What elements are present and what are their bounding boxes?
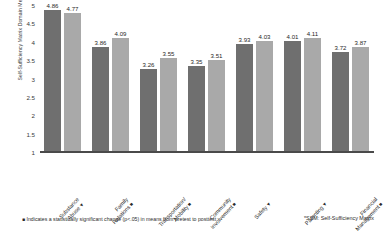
x-category-label: Transportation/Mobility■: [157, 196, 192, 232]
bar-group: 4.014.11: [284, 5, 321, 152]
significance-marker-icon: ■: [229, 201, 236, 208]
x-axis-labels: SubstanceAbuse▼FamilyRelations■Transport…: [40, 153, 372, 205]
bar-value-label: 4.09: [115, 30, 127, 37]
y-tick-label: 2: [32, 112, 40, 119]
bar-pretest[interactable]: 4.01: [284, 41, 301, 152]
y-tick-label: 3.5: [26, 57, 40, 64]
bar-value-label: 3.55: [163, 50, 175, 57]
y-tick-label: 4: [32, 38, 40, 45]
y-tick-label: 4.5: [26, 20, 40, 27]
bar-value-label: 4.03: [259, 33, 271, 40]
x-category-label: Safety▼: [253, 201, 273, 221]
footnote-significance: ■Indicates a statistically significant c…: [22, 216, 216, 222]
y-tick-label: 3: [32, 75, 40, 82]
bar-posttest[interactable]: 3.87: [352, 47, 369, 152]
significance-marker-icon: ▼: [76, 201, 84, 209]
bar-group: 3.263.55: [140, 5, 177, 152]
significance-marker-icon: ▼: [320, 201, 328, 209]
footnote-significance-text: Indicates a statistically significant ch…: [27, 216, 217, 222]
y-tick-label: 1: [32, 149, 40, 156]
y-tick-label: 2.5: [26, 93, 40, 100]
bar-posttest[interactable]: 4.09: [112, 38, 129, 152]
bar-group: 3.864.09: [92, 5, 129, 152]
bar-group: 3.353.51: [188, 5, 225, 152]
bar-pretest[interactable]: 3.26: [140, 69, 157, 152]
y-tick-label: 1.5: [26, 130, 40, 137]
bar-posttest[interactable]: 4.77: [64, 13, 81, 152]
y-axis-title: Self-Sufficiency Matrix Domain Mean Scor…: [14, 0, 26, 92]
x-category-label: FinancialManagement■: [349, 196, 383, 232]
significance-marker-icon: ■: [184, 201, 191, 208]
bar-groups: 4.864.773.864.093.263.553.353.513.934.03…: [40, 5, 372, 152]
bar-pretest[interactable]: 4.86: [44, 10, 61, 152]
bar-value-label: 4.11: [307, 30, 318, 37]
bar-pretest[interactable]: 3.72: [332, 52, 349, 152]
bar-posttest[interactable]: 3.55: [160, 58, 177, 152]
bar-posttest[interactable]: 4.03: [256, 41, 273, 152]
plot-area: 11.522.533.544.55 4.864.773.864.093.263.…: [40, 5, 372, 152]
bar-value-label: 3.26: [143, 61, 155, 68]
bar-pretest[interactable]: 3.86: [92, 47, 109, 152]
bar-group: 3.934.03: [236, 5, 273, 152]
bar-pretest[interactable]: 3.35: [188, 66, 205, 152]
bar-value-label: 3.72: [335, 44, 347, 51]
bar-value-label: 3.35: [191, 58, 203, 65]
footnote-ssm-abbreviation: *SSM: Self-Sufficiency Matrix: [304, 215, 374, 221]
bar-group: 4.864.77: [44, 5, 81, 152]
bar-value-label: 3.51: [211, 52, 223, 59]
x-category-label: Parenting▼: [303, 201, 328, 227]
bar-value-label: 4.86: [47, 2, 59, 9]
bar-value-label: 3.86: [95, 39, 107, 46]
bar-value-label: 3.87: [355, 39, 367, 46]
bar-posttest[interactable]: 4.11: [304, 38, 321, 152]
bar-posttest[interactable]: 3.51: [208, 60, 225, 152]
significance-marker-icon: ■: [126, 201, 133, 208]
y-tick-label: 5: [32, 2, 40, 9]
bar-value-label: 4.77: [67, 5, 79, 12]
significance-marker-icon: ■: [376, 201, 383, 208]
x-category-label: CommunityInvolvement■: [204, 196, 237, 230]
bar-group: 3.723.87: [332, 5, 369, 152]
significance-marker-icon: ▼: [263, 201, 271, 209]
bar-value-label: 3.93: [239, 36, 251, 43]
bar-pretest[interactable]: 3.93: [236, 44, 253, 152]
bar-value-label: 4.01: [287, 33, 299, 40]
